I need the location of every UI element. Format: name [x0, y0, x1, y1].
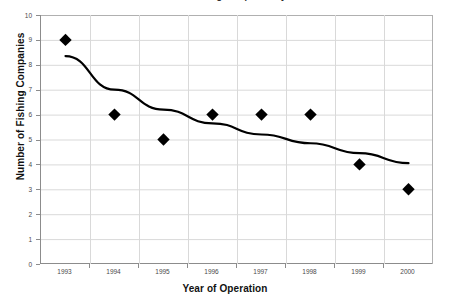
- x-axis-title: Year of Operation: [0, 283, 450, 294]
- y-tick-label-5: 5: [6, 136, 32, 143]
- x-tick-label-1993: 1993: [45, 268, 85, 276]
- data-point-2000: [402, 183, 414, 195]
- data-point-1994: [108, 108, 120, 120]
- plot-area: [40, 15, 432, 264]
- y-tick-label-1: 1: [6, 236, 32, 243]
- x-tick-mark-2: [138, 264, 139, 268]
- x-tick-label-1994: 1994: [94, 268, 134, 276]
- x-tick-label-1999: 1999: [339, 268, 379, 276]
- y-tick-mark-0: [36, 264, 40, 265]
- y-tick-label-3: 3: [6, 186, 32, 193]
- data-point-1999: [353, 158, 365, 170]
- x-tick-mark-1: [89, 264, 90, 268]
- data-point-1997: [255, 108, 267, 120]
- x-tick-label-1995: 1995: [143, 268, 183, 276]
- y-tick-label-6: 6: [6, 111, 32, 118]
- x-tick-label-1997: 1997: [241, 268, 281, 276]
- x-tick-mark-4: [236, 264, 237, 268]
- data-point-1995: [157, 133, 169, 145]
- y-tick-label-8: 8: [6, 61, 32, 68]
- plot-canvas: [41, 15, 433, 264]
- data-point-1993: [59, 34, 71, 46]
- y-tick-label-9: 9: [6, 36, 32, 43]
- y-tick-label-2: 2: [6, 211, 32, 218]
- x-tick-mark-7: [383, 264, 384, 268]
- data-point-1998: [304, 108, 316, 120]
- x-tick-label-1996: 1996: [192, 268, 232, 276]
- y-tick-label-7: 7: [6, 86, 32, 93]
- x-tick-mark-5: [285, 264, 286, 268]
- chart-title: Number of Fishing Companies by Year: [0, 0, 450, 2]
- chart-figure: Number of Fishing Companies by Year Numb…: [0, 0, 450, 298]
- x-tick-label-2000: 2000: [388, 268, 428, 276]
- y-tick-label-10: 10: [6, 12, 32, 19]
- y-tick-label-4: 4: [6, 161, 32, 168]
- x-tick-mark-3: [187, 264, 188, 268]
- x-tick-mark-6: [334, 264, 335, 268]
- data-point-1996: [206, 108, 218, 120]
- x-tick-label-1998: 1998: [290, 268, 330, 276]
- y-tick-label-0: 0: [6, 261, 32, 268]
